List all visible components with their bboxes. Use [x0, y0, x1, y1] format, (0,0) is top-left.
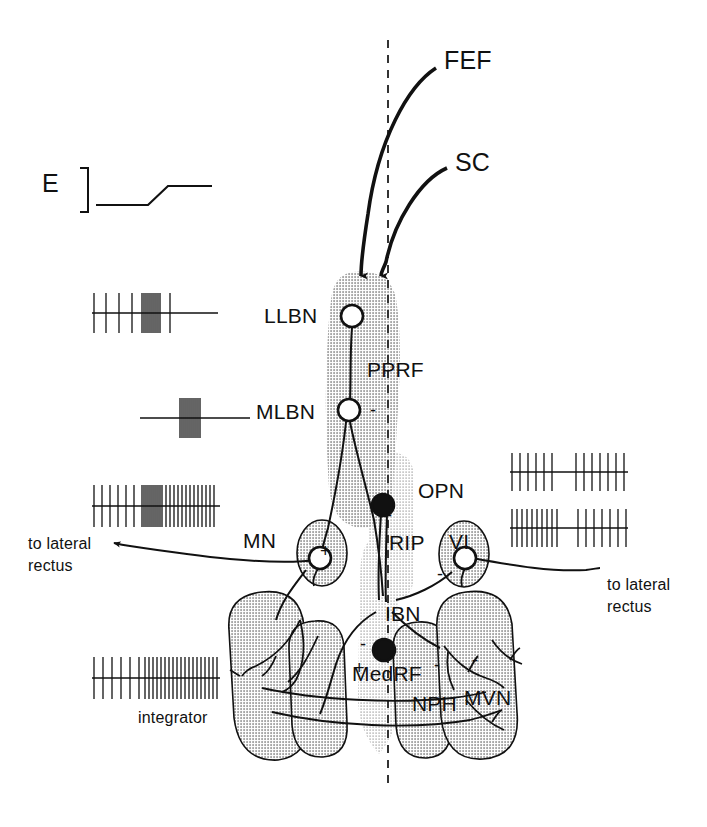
trace-opn-lower	[510, 509, 628, 547]
sign-mark-nph-inhib: -	[434, 655, 440, 676]
label-sc: SC	[455, 148, 490, 177]
label-to-lateral-rectus-left-line1: to lateral	[28, 535, 91, 553]
label-to-lateral-rectus-right-line2: rectus	[607, 598, 652, 616]
label-vi: VI	[449, 530, 469, 554]
trace-llbn	[92, 293, 218, 333]
sign-mark-mlbn-inhib: -	[370, 400, 376, 421]
sign-mark-opn-inhib: -	[386, 505, 392, 526]
sign-mark-nph-inhib2: -	[472, 650, 478, 671]
label-mlbn: MLBN	[256, 400, 315, 424]
label-pprf: PPRF	[367, 358, 424, 382]
label-opn: OPN	[418, 479, 464, 503]
label-mn: MN	[243, 529, 276, 553]
sign-mark-mn-excit: +	[320, 541, 331, 562]
trace-integrator	[92, 657, 220, 699]
label-eye-position-e: E	[42, 169, 59, 198]
trace-opn-upper	[510, 453, 628, 491]
label-llbn: LLBN	[264, 304, 317, 328]
label-nph: NPH	[412, 692, 457, 716]
spike-raster-layer	[0, 0, 707, 827]
figure-canvas: FEF SC LLBN PPRF MLBN OPN MN RIP VI IBN …	[0, 0, 707, 827]
label-mvn: MVN	[464, 686, 511, 710]
label-ibn: IBN	[385, 602, 421, 626]
label-integrator: integrator	[138, 709, 208, 727]
sign-mark-vi-inhib: -	[437, 564, 443, 585]
trace-mn	[92, 485, 220, 527]
label-to-lateral-rectus-left-line2: rectus	[28, 557, 73, 575]
label-to-lateral-rectus-right-line1: to lateral	[607, 576, 670, 594]
label-rip: RIP	[389, 531, 425, 555]
sign-mark-ibn-excit: +	[354, 658, 365, 679]
label-fef: FEF	[444, 46, 492, 75]
sign-mark-ibn-inhib: -	[360, 634, 366, 655]
trace-mlbn	[140, 398, 250, 438]
